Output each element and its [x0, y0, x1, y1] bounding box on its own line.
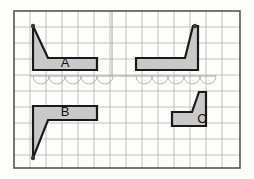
- geometry-diagram: ABC: [0, 0, 254, 179]
- shape-a-label: A: [61, 55, 70, 70]
- figure-canvas: ABC: [0, 0, 254, 179]
- shape-c-label: C: [197, 111, 206, 126]
- shape-b-vertex-dot: [31, 156, 35, 160]
- shape-a-vertex-dot: [31, 24, 35, 28]
- shape-b-label: B: [61, 104, 70, 119]
- shape-unlabeled-top-right-vertex-dot: [193, 24, 197, 28]
